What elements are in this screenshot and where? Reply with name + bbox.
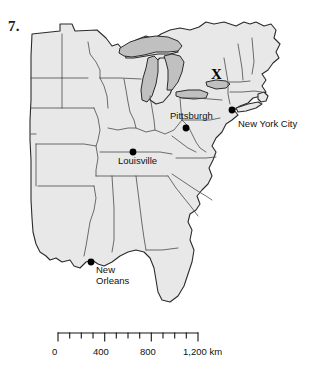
scale-bar-graphic [55,330,265,348]
city-dot-new-orleans [88,259,95,266]
scale-label-1200: 1,200 km [183,346,222,357]
scale-bar: 0 400 800 1,200 km [55,330,265,366]
city-label-pittsburgh: Pittsburgh [170,110,213,121]
city-label-new-york-city: New York City [238,118,297,129]
city-label-new-orleans: New Orleans [96,264,142,286]
city-label-louisville: Louisville [118,155,157,166]
x-location-marker: X [211,66,222,83]
scale-label-400: 400 [93,346,109,357]
cape-cod [258,92,268,102]
map-figure: 7. [0,0,309,371]
city-dot-pittsburgh [183,125,190,132]
scale-unit-label: km [209,346,222,357]
scale-label-800: 800 [140,346,156,357]
city-dot-new-york-city [229,107,236,114]
scale-label-0: 0 [52,346,57,357]
scale-label-1200-value: 1,200 [183,346,207,357]
